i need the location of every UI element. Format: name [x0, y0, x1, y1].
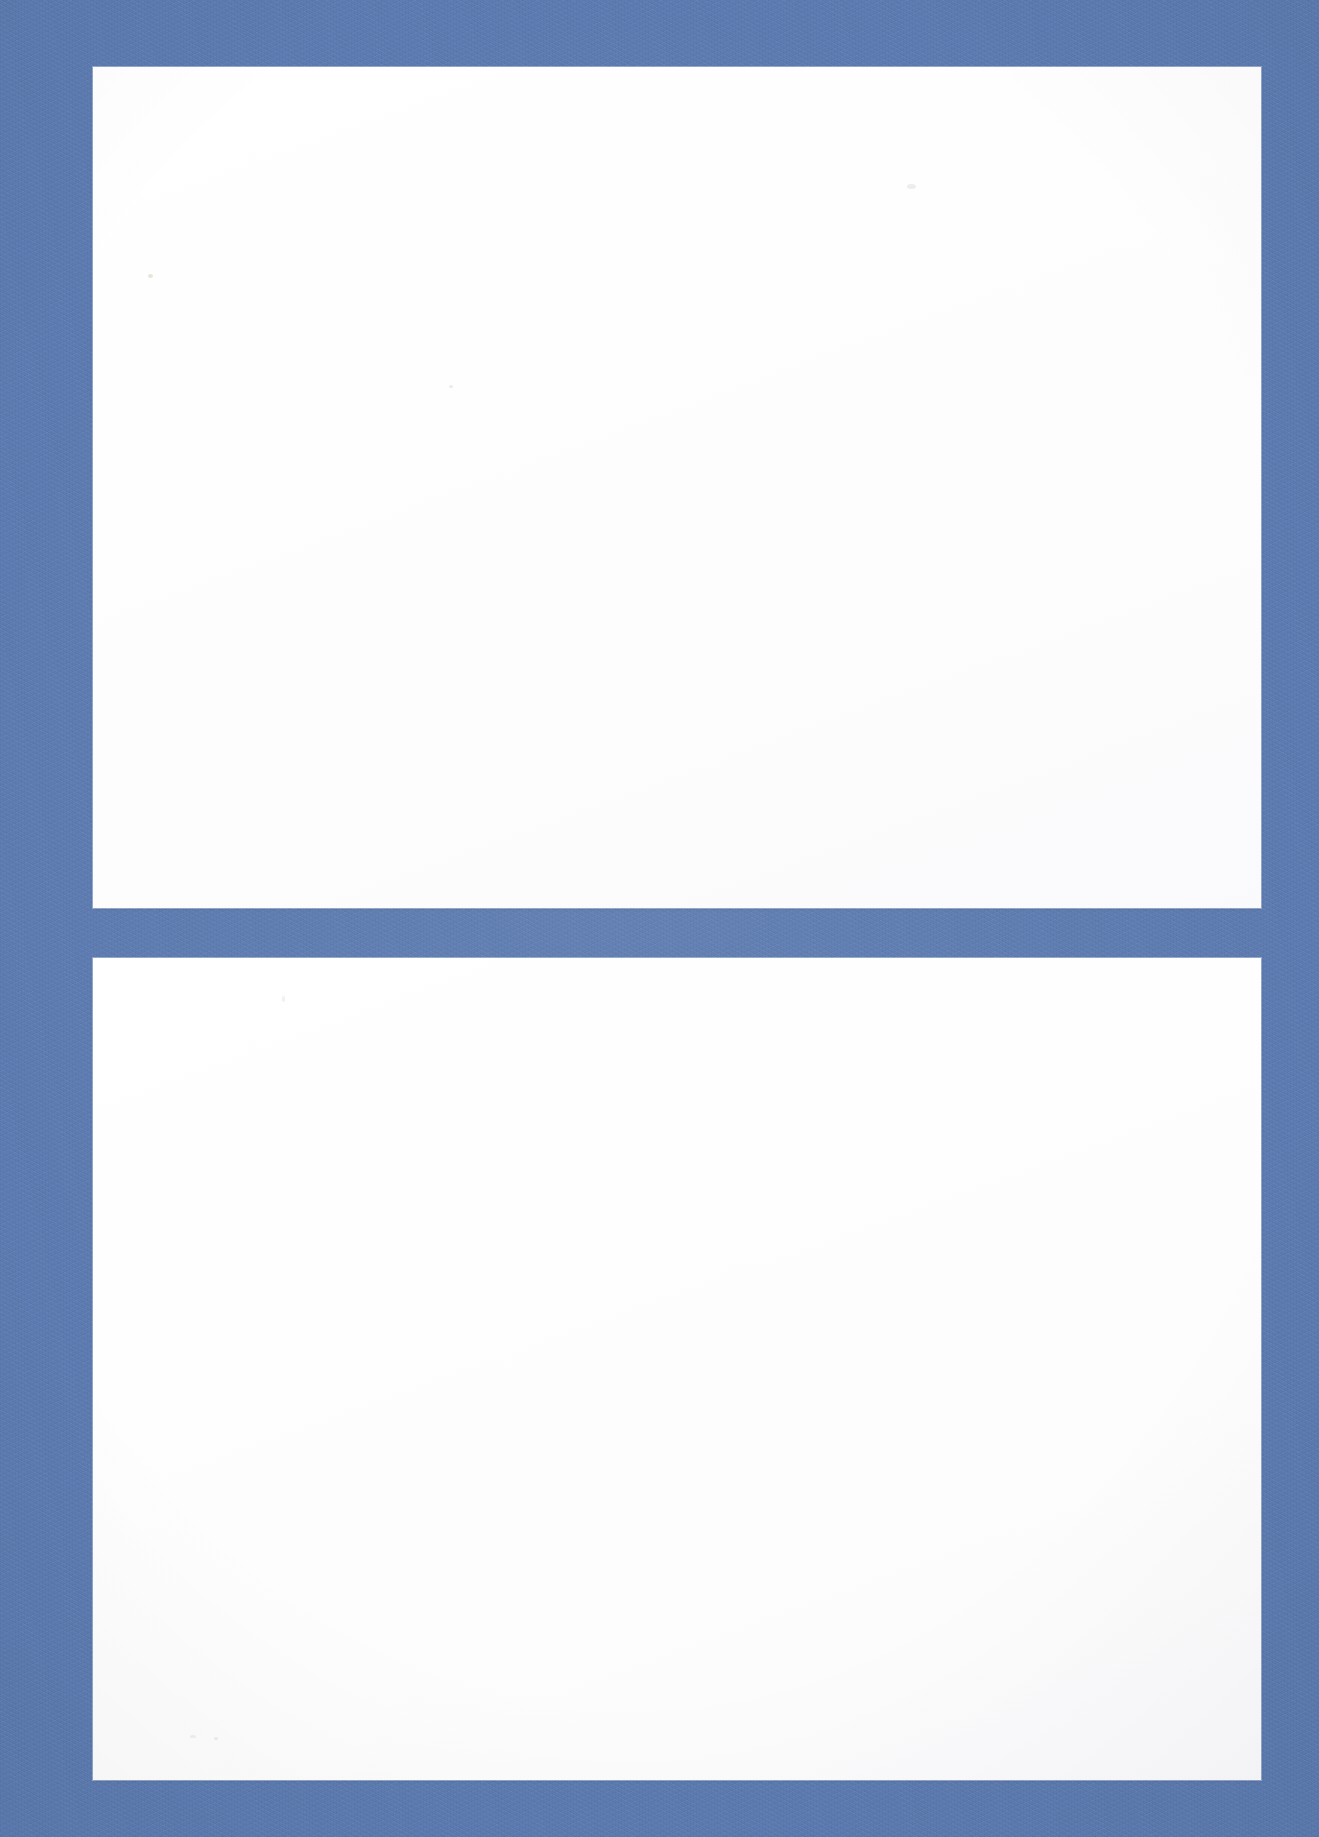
lower-panel	[93, 958, 1261, 1780]
scanned-page	[0, 0, 1319, 1837]
upper-panel	[93, 67, 1261, 908]
